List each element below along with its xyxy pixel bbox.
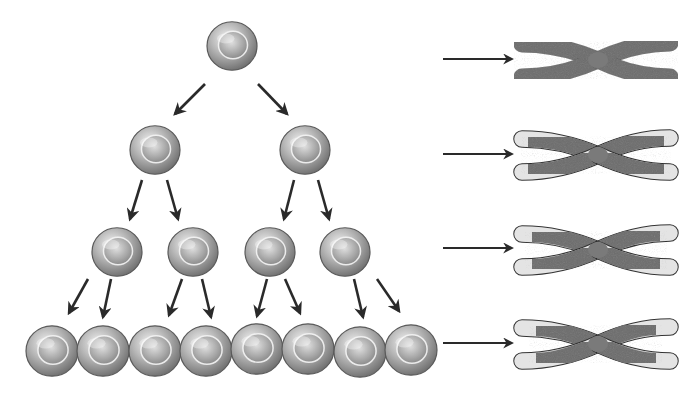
cell xyxy=(130,126,180,175)
cell-tree xyxy=(26,22,437,377)
division-arrow-icon xyxy=(69,279,88,313)
chromosome xyxy=(522,138,670,172)
division-arrow-icon xyxy=(284,180,294,219)
division-arrow-icon xyxy=(103,279,111,317)
cell xyxy=(129,326,181,376)
cell xyxy=(92,228,142,277)
cell xyxy=(334,327,386,377)
division-arrow-icon xyxy=(175,84,205,114)
cell xyxy=(280,126,330,175)
division-arrow-icon xyxy=(167,180,178,219)
division-arrow-icon xyxy=(285,279,300,313)
division-arrow-icon xyxy=(354,279,363,317)
cell xyxy=(26,326,78,376)
cell xyxy=(180,326,232,376)
division-arrow-icon xyxy=(318,180,329,219)
division-arrow-icon xyxy=(377,279,399,311)
division-arrow-icon xyxy=(202,279,211,317)
cell xyxy=(385,325,437,375)
division-arrow-icon xyxy=(130,180,142,219)
chromosome xyxy=(522,327,670,361)
chromosome xyxy=(522,43,670,77)
division-arrow-icon xyxy=(257,279,267,316)
chromosome xyxy=(522,233,670,267)
cell xyxy=(168,228,218,277)
cell xyxy=(282,324,334,374)
division-arrow-icon xyxy=(169,279,182,315)
cell-division-diagram xyxy=(0,0,699,397)
division-arrow-icon xyxy=(258,84,287,114)
cell xyxy=(77,326,129,376)
cell xyxy=(245,228,295,277)
cell xyxy=(231,324,283,374)
chromosome-column xyxy=(522,43,670,361)
cell xyxy=(207,22,257,71)
chromosome-arrows xyxy=(443,59,512,343)
cell xyxy=(320,228,370,277)
division-arrows xyxy=(69,84,399,317)
